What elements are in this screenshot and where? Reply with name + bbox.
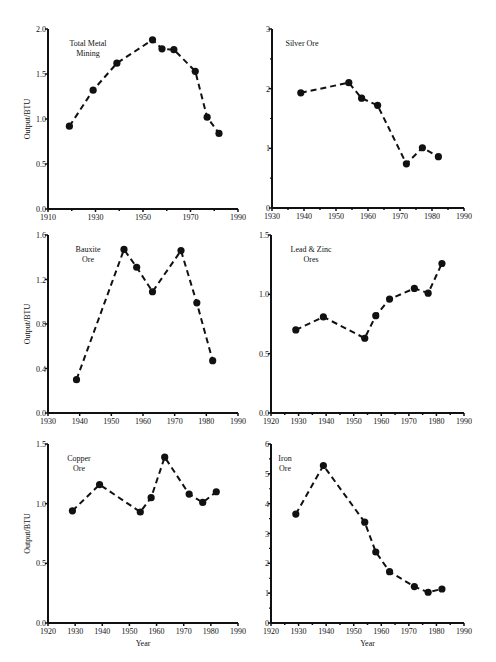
x-tick-label: 1930 bbox=[264, 212, 280, 221]
x-tick-label: 1990 bbox=[456, 212, 472, 221]
data-point bbox=[372, 548, 379, 555]
x-tick-label: 1990 bbox=[456, 627, 472, 636]
x-tick-label: 1980 bbox=[428, 417, 444, 426]
data-point bbox=[411, 285, 418, 292]
data-line bbox=[301, 83, 439, 164]
data-point bbox=[320, 462, 327, 469]
y-tick-label: 1.5 bbox=[259, 231, 269, 240]
y-tick-label: 1.5 bbox=[36, 70, 46, 79]
y-tick-label: 1.5 bbox=[36, 440, 46, 449]
y-tick-label: 3 bbox=[266, 25, 270, 34]
data-point bbox=[425, 589, 432, 596]
y-tick-label: 0 bbox=[266, 204, 270, 213]
data-point bbox=[438, 260, 445, 267]
x-tick-label: 1960 bbox=[373, 627, 389, 636]
x-axis-label: Year bbox=[136, 639, 151, 648]
data-point bbox=[69, 507, 76, 514]
data-point bbox=[345, 79, 352, 86]
y-tick-label: 0.5 bbox=[259, 350, 269, 359]
x-tick-label: 1990 bbox=[230, 627, 246, 636]
x-tick-label: 1930 bbox=[88, 213, 104, 222]
data-point bbox=[435, 153, 442, 160]
data-point bbox=[292, 511, 299, 518]
panel-title: Mining bbox=[76, 49, 100, 58]
data-point bbox=[297, 89, 304, 96]
x-tick-label: 1930 bbox=[67, 627, 83, 636]
panel-title: Ore bbox=[73, 464, 85, 473]
x-tick-label: 1950 bbox=[121, 627, 137, 636]
data-point bbox=[113, 60, 120, 67]
data-point bbox=[374, 102, 381, 109]
panel-iron-ore: 192019301940195019601970198019900123456Y… bbox=[263, 440, 472, 648]
data-point bbox=[192, 68, 199, 75]
panel-title: Bauxite bbox=[76, 245, 101, 254]
data-point bbox=[386, 295, 393, 302]
y-tick-label: 1.0 bbox=[36, 500, 46, 509]
data-point bbox=[96, 481, 103, 488]
panel-title: Copper bbox=[67, 454, 91, 463]
x-tick-label: 1950 bbox=[135, 213, 151, 222]
x-tick-label: 1960 bbox=[149, 627, 165, 636]
data-line bbox=[72, 457, 216, 512]
x-tick-label: 1980 bbox=[428, 627, 444, 636]
y-tick-label: 1.0 bbox=[259, 290, 269, 299]
x-tick-label: 1990 bbox=[456, 417, 472, 426]
data-point bbox=[66, 123, 73, 130]
panel-title: Ore bbox=[279, 464, 291, 473]
data-line bbox=[296, 264, 442, 339]
data-point bbox=[292, 326, 299, 333]
panel-lead-zinc-ores: 192019301940195019601970198019900.00.51.… bbox=[259, 231, 472, 426]
y-tick-label: 4 bbox=[265, 500, 269, 509]
y-tick-label: 0.8 bbox=[36, 320, 46, 329]
panel-title: Ores bbox=[303, 255, 318, 264]
data-point bbox=[90, 87, 97, 94]
y-tick-label: 1.2 bbox=[36, 276, 46, 285]
panel-bauxite-ore: 19301940195019601970198019900.00.40.81.2… bbox=[23, 231, 246, 426]
data-point bbox=[149, 288, 156, 295]
x-tick-label: 1940 bbox=[318, 417, 334, 426]
data-point bbox=[158, 45, 165, 52]
x-tick-label: 1960 bbox=[360, 212, 376, 221]
y-tick-label: 3 bbox=[265, 530, 269, 539]
x-tick-label: 1920 bbox=[40, 627, 56, 636]
y-tick-label: 2 bbox=[265, 559, 269, 568]
y-tick-label: 1 bbox=[265, 589, 269, 598]
panel-title: Total Metal bbox=[70, 39, 108, 48]
x-tick-label: 1970 bbox=[392, 212, 408, 221]
y-tick-label: 0.0 bbox=[36, 619, 46, 628]
panel-copper-ore: 192019301940195019601970198019900.00.51.… bbox=[23, 440, 246, 648]
x-tick-label: 1960 bbox=[135, 417, 151, 426]
x-tick-label: 1960 bbox=[373, 417, 389, 426]
x-tick-label: 1940 bbox=[94, 627, 110, 636]
data-point bbox=[120, 246, 127, 253]
x-tick-label: 1990 bbox=[230, 417, 246, 426]
x-tick-label: 1980 bbox=[203, 627, 219, 636]
x-tick-label: 1940 bbox=[318, 627, 334, 636]
y-tick-label: 1 bbox=[266, 144, 270, 153]
y-tick-label: 0.0 bbox=[36, 205, 46, 214]
y-tick-label: 0.5 bbox=[36, 559, 46, 568]
panel-title: Silver Ore bbox=[285, 39, 319, 48]
x-tick-label: 1970 bbox=[167, 417, 183, 426]
x-tick-label: 1950 bbox=[103, 417, 119, 426]
data-point bbox=[215, 130, 222, 137]
y-tick-label: 1.6 bbox=[36, 231, 46, 240]
panel-total-metal-mining: 191019301950197019900.00.51.01.52.0Outpu… bbox=[23, 25, 246, 222]
y-tick-label: 1.0 bbox=[36, 115, 46, 124]
y-tick-label: 6 bbox=[265, 440, 269, 449]
panel-title: Iron bbox=[278, 454, 291, 463]
data-point bbox=[361, 335, 368, 342]
x-tick-label: 1920 bbox=[263, 417, 279, 426]
data-point bbox=[148, 494, 155, 501]
x-tick-label: 1970 bbox=[401, 627, 417, 636]
data-point bbox=[193, 299, 200, 306]
x-tick-label: 1950 bbox=[346, 627, 362, 636]
x-tick-label: 1990 bbox=[230, 213, 246, 222]
data-point bbox=[73, 376, 80, 383]
x-tick-label: 1940 bbox=[72, 417, 88, 426]
data-point bbox=[372, 312, 379, 319]
data-point bbox=[213, 488, 220, 495]
y-tick-label: 0 bbox=[265, 619, 269, 628]
data-point bbox=[361, 519, 368, 526]
data-point bbox=[438, 585, 445, 592]
